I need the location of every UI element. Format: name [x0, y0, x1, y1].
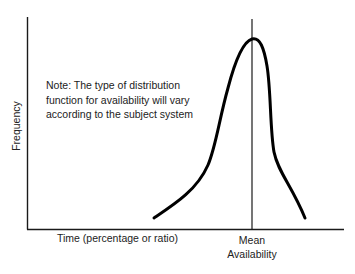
mean-label-line-2: Availability	[227, 247, 276, 261]
note-line-2: function for availability will vary	[46, 93, 193, 108]
mean-availability-label: Mean Availability	[227, 233, 276, 261]
x-axis-label: Time (percentage or ratio)	[57, 231, 178, 246]
distribution-curve	[154, 39, 305, 218]
note-line-1: Note: The type of distribution	[46, 78, 193, 93]
y-axis-label: Frequency	[9, 101, 24, 151]
note-line-3: according to the subject system	[46, 107, 193, 122]
mean-label-line-1: Mean	[227, 233, 276, 247]
note-text: Note: The type of distribution function …	[46, 78, 193, 122]
